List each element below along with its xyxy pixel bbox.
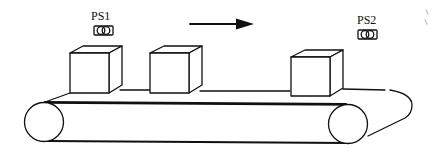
- sensor-ps1: PS1: [91, 9, 113, 35]
- conveyor-diagram: PS1 PS2: [0, 0, 438, 156]
- right-roller: [329, 105, 368, 144]
- sensor-ps2-label: PS2: [357, 13, 376, 27]
- photo-sensor-icon: [358, 30, 377, 39]
- arrow-right-icon: [190, 19, 254, 30]
- box-2: [150, 46, 202, 93]
- left-roller: [25, 103, 64, 142]
- box-1: [70, 46, 122, 93]
- box-3: [291, 50, 343, 96]
- sensor-ps1-label: PS1: [91, 9, 110, 23]
- faint-marks: [425, 10, 428, 24]
- sensor-ps2: PS2: [357, 13, 377, 39]
- photo-sensor-icon: [94, 26, 113, 35]
